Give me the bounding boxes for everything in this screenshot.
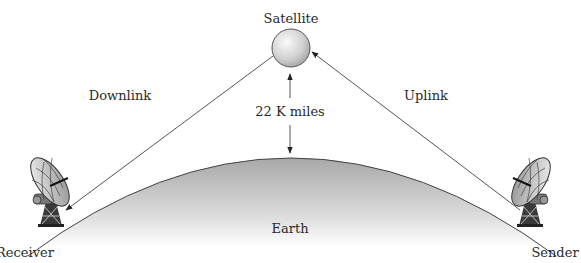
satellite-sphere-icon [272, 29, 310, 67]
earth-surface [28, 158, 556, 263]
earth-label: Earth [271, 221, 309, 236]
distance-label: 22 K miles [255, 104, 325, 119]
satellite: Satellite [264, 11, 319, 67]
distance-indicator: 22 K miles [255, 74, 325, 153]
downlink-label: Downlink [89, 88, 151, 103]
sender-label: Sender [531, 245, 579, 260]
uplink-label: Uplink [404, 88, 448, 103]
satellite-label: Satellite [264, 11, 319, 26]
earth: Earth [28, 158, 556, 263]
satellite-dish-icon [504, 152, 557, 227]
satellite-dish-icon [23, 152, 76, 227]
receiver-label: Receiver [0, 245, 55, 260]
satellite-link-diagram: Earth Satellite 22 K miles Downlink Upli… [0, 0, 581, 263]
